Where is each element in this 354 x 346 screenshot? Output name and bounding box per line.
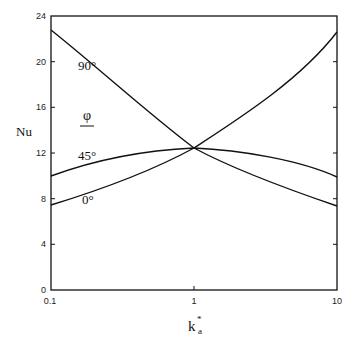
y-tick-label: 4 — [41, 239, 46, 249]
curves — [51, 30, 337, 206]
x-tick-label: 0.1 — [44, 296, 57, 306]
x-tick-labels: 0.1 1 10 — [44, 296, 342, 306]
y-axis-label: Nu — [16, 124, 32, 139]
label-45: 45° — [78, 148, 96, 163]
y-tick-labels: 0 4 8 12 16 20 24 — [36, 11, 46, 295]
x-axis-label-main: k — [188, 318, 196, 334]
y-tick-label: 20 — [36, 57, 46, 67]
y-tick-label: 24 — [36, 11, 46, 21]
label-0: 0° — [82, 192, 94, 207]
label-90: 90° — [78, 58, 96, 73]
chart: 0 4 8 12 16 20 24 0.1 1 10 90° 45° 0° φ … — [0, 0, 354, 346]
curve-90 — [51, 30, 337, 148]
y-tick-label: 12 — [36, 148, 46, 158]
x-tick-label: 1 — [191, 296, 196, 306]
x-tick-label: 10 — [332, 296, 342, 306]
x-axis-label-sup: * — [197, 314, 202, 324]
y-tick-label: 16 — [36, 102, 46, 112]
y-tick-label: 8 — [41, 194, 46, 204]
x-axis-label-sub: a — [198, 326, 202, 336]
y-tick-label: 0 — [41, 285, 46, 295]
phi-label: φ — [83, 108, 91, 123]
